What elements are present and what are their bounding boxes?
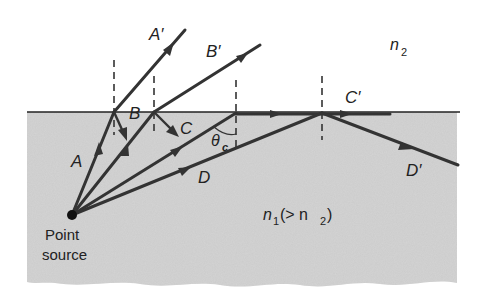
- svg-text:1: 1: [273, 215, 279, 227]
- svg-text:Point: Point: [45, 226, 80, 243]
- svg-text:n: n: [390, 36, 399, 53]
- svg-text:2: 2: [320, 215, 326, 227]
- dense-medium-texture: [27, 112, 457, 287]
- label-a-refracted: A′: [148, 25, 164, 44]
- svg-text:): ): [327, 206, 332, 223]
- label-d-reflected: D′: [406, 161, 422, 180]
- svg-text:c: c: [222, 141, 228, 153]
- svg-text:source: source: [42, 246, 87, 263]
- label-c: C: [180, 119, 193, 138]
- label-medium-n2: n 2: [390, 36, 407, 58]
- label-c-grazing: C′: [345, 88, 361, 107]
- label-d: D: [198, 168, 210, 187]
- svg-text:θ: θ: [211, 132, 220, 149]
- label-b: B: [129, 104, 140, 123]
- svg-text:n: n: [263, 206, 272, 223]
- point-source-dot: [67, 210, 77, 220]
- ray-b-refracted-arrow-icon: [236, 53, 248, 63]
- svg-text:2: 2: [401, 46, 407, 58]
- tir-diagram: A′ B′ B C A D C′ D′ θ c n 2 n 1 (> n 2 )…: [0, 0, 483, 300]
- label-b-refracted: B′: [206, 42, 221, 61]
- label-a: A: [70, 152, 82, 171]
- svg-text:(> n: (> n: [280, 206, 308, 223]
